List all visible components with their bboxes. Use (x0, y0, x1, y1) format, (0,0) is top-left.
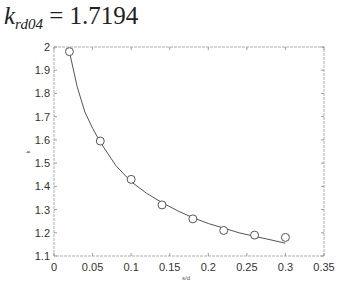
data-point (189, 215, 197, 223)
y-tick-label: 1.8 (35, 87, 50, 99)
x-axis-label: s/d (182, 275, 190, 281)
y-tick-label: 1.9 (35, 64, 50, 76)
y-tick-label: 1.1 (35, 250, 50, 262)
x-tick-label: 0.3 (278, 261, 293, 273)
x-tick-label: 0.25 (236, 261, 257, 273)
y-tick-label: 1.3 (35, 204, 50, 216)
x-tick-label: 0.2 (201, 261, 216, 273)
x-tick-label: 0.05 (82, 261, 103, 273)
data-point (96, 137, 104, 145)
y-tick-label: 2 (44, 41, 50, 53)
x-tick-label: 0.1 (123, 261, 138, 273)
fit-curve (69, 52, 285, 244)
x-tick-label: 0 (51, 261, 57, 273)
data-point (158, 201, 166, 209)
y-tick-label: 1.4 (35, 180, 50, 192)
x-tick-label: 0.15 (159, 261, 180, 273)
y-tick-label: 1.6 (35, 134, 50, 146)
plot-area: 00.050.10.150.20.250.30.351.11.21.31.41.… (0, 0, 342, 287)
data-point (127, 175, 135, 183)
data-point (65, 48, 73, 56)
axes-frame (54, 47, 324, 256)
y-tick-label: 1.7 (35, 111, 50, 123)
data-point (251, 231, 259, 239)
data-point (220, 226, 228, 234)
x-tick-label: 0.35 (313, 261, 334, 273)
y-axis-label: k (25, 150, 31, 154)
y-tick-label: 1.5 (35, 157, 50, 169)
data-point (281, 233, 289, 241)
y-tick-label: 1.2 (35, 227, 50, 239)
